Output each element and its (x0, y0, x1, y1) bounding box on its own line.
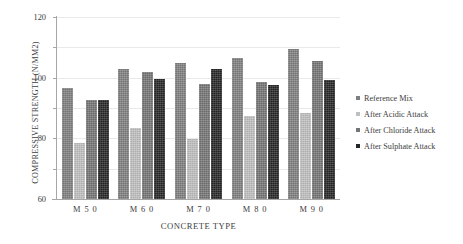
bar (86, 100, 97, 199)
legend-swatch-icon (356, 144, 360, 148)
legend-label: After Acidic Attack (364, 110, 428, 119)
x-axis-title: CONCRETE TYPE (57, 221, 340, 231)
legend-item[interactable]: After Acidic Attack (356, 106, 460, 122)
bar-group: M 7 0 (170, 17, 227, 199)
legend-label: Reference Mix (364, 94, 413, 103)
bar-group: M 6 0 (114, 17, 171, 199)
legend-label: After Chloride Attack (364, 126, 435, 135)
bar (232, 58, 243, 199)
bar (199, 84, 210, 199)
legend-swatch-icon (356, 112, 360, 116)
bar (256, 82, 267, 199)
bar (288, 49, 299, 199)
bar (142, 72, 153, 199)
x-axis-tick-label: M 8 0 (243, 205, 268, 214)
bar (175, 63, 186, 200)
y-axis-tick-label: 80 (38, 134, 46, 143)
bar (312, 61, 323, 199)
x-axis-tick-label: M 6 0 (130, 205, 155, 214)
legend-label: After Sulphate Attack (364, 142, 435, 151)
bar (244, 116, 255, 199)
legend-swatch-icon (356, 128, 360, 132)
bar (62, 88, 73, 199)
x-axis-tick-label: M 9 0 (299, 205, 324, 214)
y-axis-tick-label: 100 (33, 73, 46, 82)
legend-item[interactable]: After Chloride Attack (356, 122, 460, 138)
bar (118, 69, 129, 199)
plot-area: 020406080100120 M 5 0M 6 0M 7 0M 8 0M 9 … (57, 17, 340, 199)
bar (154, 79, 165, 199)
legend-item[interactable]: After Sulphate Attack (356, 138, 460, 154)
bar (300, 113, 311, 199)
bar (130, 128, 141, 199)
bar-group: M 9 0 (283, 17, 340, 199)
y-axis-tick-label: 60 (38, 195, 46, 204)
bar (74, 143, 85, 199)
bar-group: M 8 0 (227, 17, 284, 199)
bar (187, 139, 198, 199)
y-axis-tick-label: 120 (33, 13, 46, 22)
legend-swatch-icon (356, 96, 360, 100)
bar-chart: COMPRESSIVE STRENGTH (N/MM2) 02040608010… (0, 0, 463, 244)
x-axis-tick-label: M 5 0 (73, 205, 98, 214)
x-axis-tick-label: M 7 0 (186, 205, 211, 214)
bar (324, 80, 335, 199)
bar (268, 85, 279, 199)
y-axis-title: COMPRESSIVE STRENGTH (N/MM2) (31, 13, 40, 213)
bar (98, 100, 109, 199)
bar (211, 69, 222, 199)
x-axis-line (52, 199, 340, 200)
bar-group: M 5 0 (57, 17, 114, 199)
legend-item[interactable]: Reference Mix (356, 90, 460, 106)
chart-legend: Reference MixAfter Acidic AttackAfter Ch… (356, 90, 460, 154)
